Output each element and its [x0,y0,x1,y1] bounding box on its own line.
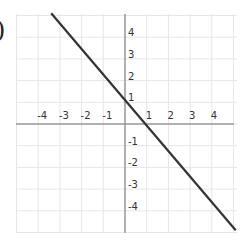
y-tick-label: 3 [128,49,134,60]
x-tick-label: 3 [189,110,195,121]
y-tick-label: 4 [128,27,134,38]
coordinate-plane: -4-3-2-11234 4321-1-2-3-4 [0,0,244,248]
axes [16,14,234,233]
x-tick-label: -2 [81,110,91,121]
y-tick-label: -4 [128,201,138,212]
x-tick-labels: -4-3-2-11234 [37,110,217,121]
y-tick-label: 2 [128,71,134,82]
y-tick-label: -2 [128,157,138,168]
plotted-line [51,13,236,230]
y-tick-labels: 4321-1-2-3-4 [128,27,138,212]
x-tick-label: -3 [59,110,69,121]
y-tick-label: -3 [128,179,138,190]
x-tick-label: 2 [167,110,173,121]
y-tick-label: -1 [128,136,138,147]
x-tick-label: -4 [37,110,47,121]
y-tick-label: 1 [128,92,134,103]
series-line [51,13,236,230]
x-tick-label: 1 [146,110,152,121]
x-tick-label: -1 [102,110,112,121]
x-tick-label: 4 [211,110,217,121]
